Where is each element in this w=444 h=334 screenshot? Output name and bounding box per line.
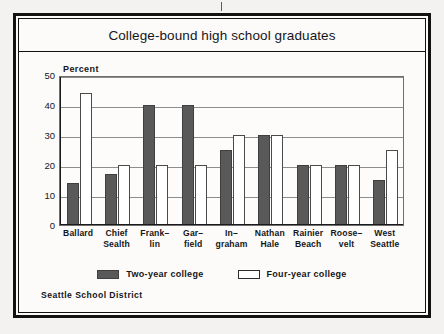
bar-four-year-nathan-hale	[271, 135, 283, 225]
bar-two-year-rainier-beach	[297, 165, 309, 225]
bar-two-year-chief-sealth	[105, 174, 117, 225]
figure-inner-border: College-bound high school graduates Perc…	[18, 18, 426, 313]
legend-swatch-four-year	[238, 270, 260, 279]
bar-four-year-rainier-beach	[310, 165, 322, 225]
x-label-west-seattle: WestSeattle	[362, 228, 408, 250]
bars-layer	[60, 77, 403, 225]
y-tick-0: 0	[27, 220, 55, 231]
legend-label-two-year: Two-year college	[126, 269, 203, 279]
legend-item-two-year: Two-year college	[97, 269, 203, 279]
chart-title-band: College-bound high school graduates	[19, 19, 425, 52]
bar-four-year-west-seattle	[386, 150, 398, 225]
y-axis-line	[60, 77, 61, 225]
bar-two-year-west-seattle	[373, 180, 385, 225]
figure-frame: College-bound high school graduates Perc…	[13, 13, 431, 318]
plot-area	[59, 76, 404, 226]
page-tick-mark	[221, 2, 222, 11]
bar-four-year-garfield	[195, 165, 207, 225]
y-tick-50: 50	[27, 70, 55, 81]
plot-wrapper	[59, 76, 404, 226]
bar-four-year-franklin	[156, 165, 168, 225]
legend-swatch-two-year	[97, 270, 119, 279]
bar-four-year-ingraham	[233, 135, 245, 225]
x-axis-labels: BallardChiefSealthFrank–linGar–fieldIn–g…	[59, 228, 404, 264]
bar-four-year-roosevelt	[348, 165, 360, 225]
bar-two-year-franklin	[143, 105, 155, 225]
bar-four-year-chief-sealth	[118, 165, 130, 225]
y-tick-20: 20	[27, 160, 55, 171]
bar-two-year-roosevelt	[335, 165, 347, 225]
x-axis-line	[60, 224, 403, 225]
bar-two-year-nathan-hale	[258, 135, 270, 225]
bar-two-year-ingraham	[220, 150, 232, 225]
legend-item-four-year: Four-year college	[238, 269, 347, 279]
bar-four-year-ballard	[80, 93, 92, 225]
bar-two-year-garfield	[182, 105, 194, 225]
y-tick-30: 30	[27, 130, 55, 141]
y-tick-40: 40	[27, 100, 55, 111]
figure-footer: Seattle School District	[41, 290, 143, 300]
chart-legend: Two-year college Four-year college	[19, 269, 425, 279]
y-tick-10: 10	[27, 190, 55, 201]
page-title: College-bound high school graduates	[108, 28, 335, 43]
bar-two-year-ballard	[67, 183, 79, 225]
y-axis-label: Percent	[63, 64, 99, 74]
legend-label-four-year: Four-year college	[267, 269, 347, 279]
